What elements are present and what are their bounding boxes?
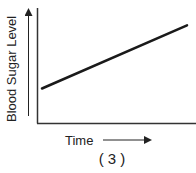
chart-canvas [0,0,196,173]
y-axis-label: Blood Sugar Level [4,16,19,122]
x-axis-label: Time [65,133,93,148]
figure-caption: ( 3 ) [0,150,196,167]
series-line [42,25,187,88]
